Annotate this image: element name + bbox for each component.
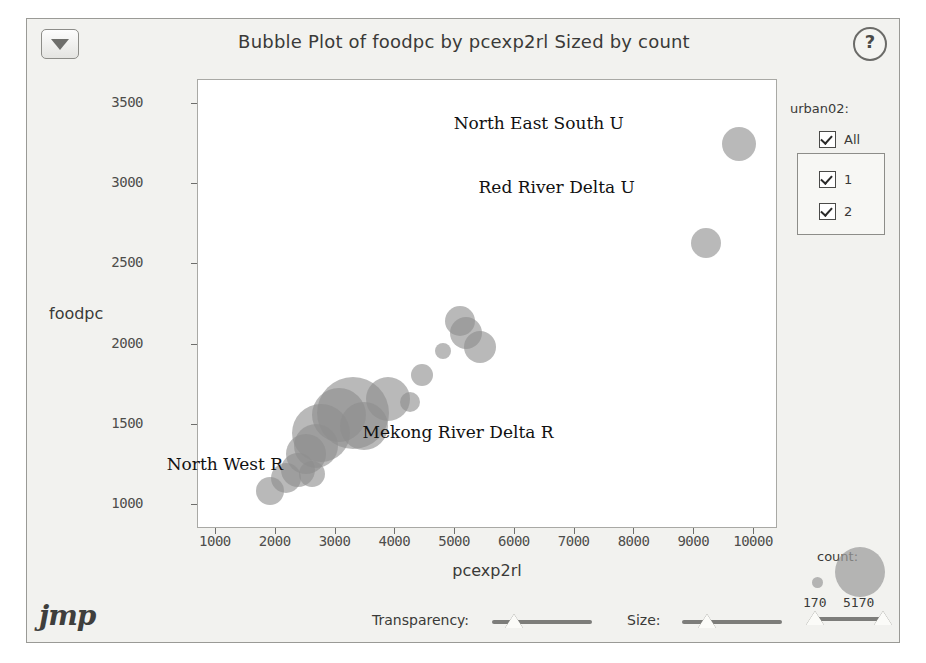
x-axis-tick-mark bbox=[394, 528, 395, 534]
y-axis-tick-label: 3500 bbox=[83, 94, 143, 110]
jmp-logo: jmp bbox=[39, 599, 95, 632]
size-legend-slider-thumb-high[interactable] bbox=[874, 611, 892, 625]
x-axis-tick-mark bbox=[275, 528, 276, 534]
data-label: Red River Delta U bbox=[479, 177, 635, 197]
bubble-point[interactable] bbox=[411, 364, 433, 386]
x-axis-tick-label: 1000 bbox=[183, 533, 247, 549]
y-axis-tick-label: 2000 bbox=[83, 335, 143, 351]
help-icon[interactable]: ? bbox=[853, 27, 887, 61]
data-label: North West R bbox=[167, 454, 283, 474]
legend-title: urban02: bbox=[790, 101, 849, 116]
y-axis-label: foodpc bbox=[49, 304, 103, 323]
size-label: Size: bbox=[627, 612, 660, 628]
size-legend-max-label: 5170 bbox=[843, 595, 874, 610]
x-axis-tick-label: 10000 bbox=[721, 533, 785, 549]
size-legend-slider-thumb-low[interactable] bbox=[806, 611, 824, 625]
size-legend-min-label: 170 bbox=[803, 595, 826, 610]
transparency-label: Transparency: bbox=[372, 612, 469, 628]
size-legend-bubble-max bbox=[835, 547, 885, 597]
y-axis-tick-label: 3000 bbox=[83, 174, 143, 190]
legend-all-row[interactable]: All bbox=[819, 131, 860, 148]
legend-group-label-2: 2 bbox=[844, 204, 852, 219]
plot-area[interactable]: North East South URed River Delta UMekon… bbox=[197, 79, 777, 528]
data-label: North East South U bbox=[454, 113, 624, 133]
y-axis-tick-label: 1000 bbox=[83, 495, 143, 511]
x-axis-tick-mark bbox=[454, 528, 455, 534]
x-axis-tick-label: 6000 bbox=[482, 533, 546, 549]
x-axis-tick-mark bbox=[574, 528, 575, 534]
size-legend-bubble-min bbox=[812, 577, 823, 588]
size-slider-track[interactable] bbox=[682, 620, 782, 624]
legend-group-label-1: 1 bbox=[844, 172, 852, 187]
size-slider-thumb[interactable] bbox=[698, 614, 716, 628]
x-axis-tick-mark bbox=[215, 528, 216, 534]
x-axis-tick-label: 8000 bbox=[601, 533, 665, 549]
x-axis-tick-mark bbox=[753, 528, 754, 534]
x-axis-tick-mark bbox=[514, 528, 515, 534]
bubble-point[interactable] bbox=[435, 343, 451, 359]
transparency-slider-thumb[interactable] bbox=[505, 614, 523, 628]
bubble-point[interactable] bbox=[299, 461, 325, 487]
x-axis-tick-mark bbox=[693, 528, 694, 534]
x-axis-label: pcexp2rl bbox=[197, 561, 777, 580]
x-axis-tick-mark bbox=[335, 528, 336, 534]
legend-group-row-2[interactable]: 2 bbox=[819, 203, 852, 220]
data-label: Mekong River Delta R bbox=[363, 422, 554, 442]
checkbox-all[interactable] bbox=[819, 131, 836, 148]
x-axis-tick-label: 2000 bbox=[243, 533, 307, 549]
bubble-point[interactable] bbox=[464, 331, 496, 363]
legend-all-label: All bbox=[844, 132, 860, 147]
legend-group-row-1[interactable]: 1 bbox=[819, 171, 852, 188]
x-axis-tick-label: 5000 bbox=[422, 533, 486, 549]
x-axis-tick-label: 3000 bbox=[303, 533, 367, 549]
x-axis-tick-mark bbox=[633, 528, 634, 534]
legend-group-box bbox=[797, 153, 885, 235]
checkbox-group-2[interactable] bbox=[819, 203, 836, 220]
page-title: Bubble Plot of foodpc by pcexp2rl Sized … bbox=[27, 31, 901, 52]
x-axis-tick-label: 9000 bbox=[661, 533, 725, 549]
y-axis-tick-label: 2500 bbox=[83, 254, 143, 270]
y-axis-tick-label: 1500 bbox=[83, 415, 143, 431]
x-axis-tick-label: 4000 bbox=[362, 533, 426, 549]
checkbox-group-1[interactable] bbox=[819, 171, 836, 188]
bubble-point[interactable] bbox=[691, 228, 721, 258]
x-axis-tick-label: 7000 bbox=[542, 533, 606, 549]
bubble-plot-window: Bubble Plot of foodpc by pcexp2rl Sized … bbox=[26, 18, 900, 643]
bubble-point[interactable] bbox=[722, 127, 756, 161]
bubble-point[interactable] bbox=[256, 477, 284, 505]
